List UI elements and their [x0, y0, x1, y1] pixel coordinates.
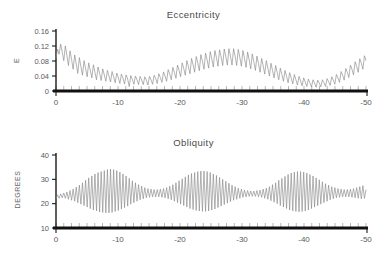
- x-tick-label: -50: [360, 235, 372, 244]
- y-tick-label: 0.04: [34, 72, 49, 81]
- x-tick-label: -20: [174, 98, 186, 107]
- y-tick-label: 0.12: [34, 42, 49, 51]
- y-tick-label: 40: [41, 151, 49, 160]
- eccentricity-plot-area: 00.040.080.120.160-10-20-30-40-50: [0, 0, 387, 128]
- y-tick-label: 0.08: [34, 57, 49, 66]
- y-tick-label: 20: [41, 199, 49, 208]
- obliquity-plot-area: 102030400-10-20-30-40-50: [0, 128, 387, 261]
- x-tick-label: -50: [360, 98, 372, 107]
- x-tick-label: -40: [298, 235, 310, 244]
- x-tick-label: 0: [54, 98, 59, 107]
- obliquity-curve: [56, 169, 366, 213]
- obliquity-panel: Obliquity DEGREES 102030400-10-20-30-40-…: [0, 128, 387, 261]
- x-tick-label: -20: [174, 235, 186, 244]
- eccentricity-panel: Eccentricity E 00.040.080.120.160-10-20-…: [0, 0, 387, 128]
- x-tick-label: 0: [54, 235, 59, 244]
- x-tick-label: -40: [298, 98, 310, 107]
- x-tick-label: -30: [236, 235, 248, 244]
- y-tick-label: 30: [41, 175, 49, 184]
- y-tick-label: 10: [41, 224, 49, 233]
- eccentricity-curve: [56, 44, 366, 87]
- x-tick-label: -10: [112, 98, 124, 107]
- x-tick-label: -10: [112, 235, 124, 244]
- obliquity-svg: 102030400-10-20-30-40-50: [0, 128, 387, 261]
- y-tick-label: 0.16: [34, 27, 49, 36]
- y-tick-label: 0: [45, 87, 49, 96]
- x-tick-label: -30: [236, 98, 248, 107]
- eccentricity-svg: 00.040.080.120.160-10-20-30-40-50: [0, 0, 387, 128]
